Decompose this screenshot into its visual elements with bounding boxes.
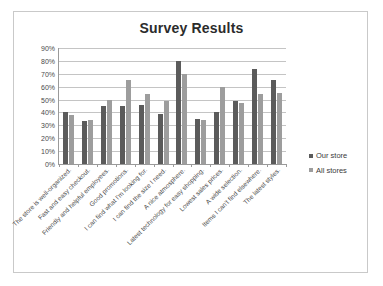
bar-group	[78, 48, 97, 164]
x-axis-tick	[248, 164, 249, 167]
bar-group	[116, 48, 135, 164]
x-axis-tick	[59, 164, 60, 167]
chart-title: Survey Results	[14, 20, 369, 36]
legend-swatch-icon	[309, 168, 313, 172]
legend-label: All stores	[316, 167, 347, 175]
y-axis-tick-label: 30%	[41, 122, 55, 129]
bar	[214, 112, 219, 164]
x-axis-tick	[78, 164, 79, 167]
bar	[233, 101, 238, 164]
x-axis-tick	[210, 164, 211, 167]
chart-legend: Our storeAll stores	[309, 152, 347, 181]
bar	[126, 80, 131, 164]
y-axis-tick-label: 60%	[41, 83, 55, 90]
x-axis-tick	[191, 164, 192, 167]
x-axis-tick	[173, 164, 174, 167]
x-axis-tick	[97, 164, 98, 167]
plot-canvas: 90%80%70%60%50%40%30%20%10%0%	[58, 48, 286, 165]
bar-group	[59, 48, 78, 164]
x-axis-tick	[229, 164, 230, 167]
bar-group	[97, 48, 116, 164]
bar	[139, 105, 144, 164]
bar-group	[191, 48, 210, 164]
x-axis-tick	[154, 164, 155, 167]
y-axis-tick-label: 20%	[41, 135, 55, 142]
bar-group	[229, 48, 248, 164]
legend-item: All stores	[309, 167, 347, 175]
y-axis-tick-label: 0%	[45, 161, 55, 168]
y-axis-tick-label: 40%	[41, 109, 55, 116]
bar	[164, 101, 169, 164]
bar	[182, 74, 187, 164]
y-axis-tick-label: 70%	[41, 70, 55, 77]
bar	[158, 114, 163, 164]
x-axis-tick	[135, 164, 136, 167]
bar	[101, 106, 106, 164]
bar-group	[267, 48, 286, 164]
bar	[195, 119, 200, 164]
bar	[63, 112, 68, 164]
legend-label: Our store	[316, 152, 347, 160]
bar	[277, 93, 282, 164]
plot-area: 90%80%70%60%50%40%30%20%10%0%	[58, 48, 286, 165]
bar	[88, 120, 93, 164]
bar-group	[173, 48, 192, 164]
bar	[271, 80, 276, 164]
y-axis-tick-label: 50%	[41, 96, 55, 103]
chart-frame: Survey Results 90%80%70%60%50%40%30%20%1…	[13, 11, 368, 273]
bar	[239, 103, 244, 164]
bar-groups	[59, 48, 286, 164]
bar	[120, 106, 125, 164]
x-axis-tick	[286, 164, 287, 167]
bar-group	[248, 48, 267, 164]
bar-group	[135, 48, 154, 164]
bar	[69, 115, 74, 164]
x-axis-tick	[116, 164, 117, 167]
bar	[252, 69, 257, 164]
bar	[201, 120, 206, 164]
legend-swatch-icon	[309, 154, 313, 158]
bar-group	[154, 48, 173, 164]
bar	[145, 94, 150, 164]
bar	[82, 121, 87, 164]
bar	[176, 61, 181, 164]
bar	[258, 94, 263, 164]
bar	[220, 87, 225, 164]
bar-group	[210, 48, 229, 164]
y-axis-tick-label: 10%	[41, 148, 55, 155]
y-axis-tick-label: 80%	[41, 57, 55, 64]
legend-item: Our store	[309, 152, 347, 160]
x-axis-tick	[267, 164, 268, 167]
bar	[107, 100, 112, 164]
y-axis-tick-label: 90%	[41, 45, 55, 52]
